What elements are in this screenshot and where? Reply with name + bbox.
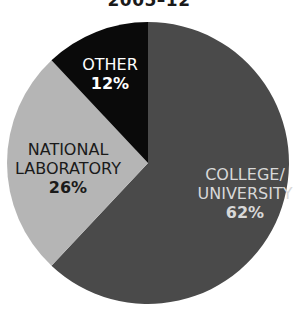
slice-label-college: COLLEGE/ UNIVERSITY 62% [190,165,298,222]
slice-label-other: OTHER 12% [70,55,150,93]
slice-label-national-lab: NATIONAL LABORATORY 26% [8,140,128,197]
